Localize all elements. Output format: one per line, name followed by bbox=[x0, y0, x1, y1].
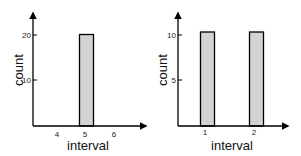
y-tick-label-20: 20 bbox=[22, 31, 31, 40]
x-tick-label-4: 4 bbox=[55, 130, 60, 139]
y-axis-title: count bbox=[155, 54, 170, 86]
x-axis-title: interval bbox=[67, 138, 109, 153]
right-chart: 10 5 1 2 interval count bbox=[155, 13, 288, 153]
bar-interval-1 bbox=[201, 32, 215, 126]
histogram-figure: 20 10 4 5 6 interval count 10 5 1 2 inte… bbox=[0, 0, 301, 156]
left-chart: 20 10 4 5 6 interval count bbox=[11, 13, 146, 153]
x-tick-label-2: 2 bbox=[252, 128, 257, 137]
x-axis-title: interval bbox=[211, 138, 253, 153]
x-tick-label-6: 6 bbox=[112, 130, 117, 139]
x-tick-label-1: 1 bbox=[203, 128, 208, 137]
bar-interval-2 bbox=[250, 32, 264, 126]
y-tick-label-10: 10 bbox=[167, 31, 176, 40]
y-tick-label-5: 5 bbox=[172, 76, 177, 85]
bar-interval-5 bbox=[80, 35, 94, 127]
y-axis-title: count bbox=[11, 54, 26, 86]
